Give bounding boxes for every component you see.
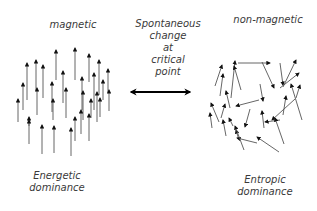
phase-transition-diagram: magnetic non-magnetic Spontaneous change… — [0, 0, 317, 211]
entropic-dominance-caption: Entropic dominance — [225, 174, 305, 198]
non-magnetic-label: non-magnetic — [228, 14, 308, 26]
magnetic-label: magnetic — [38, 19, 108, 31]
entropic-caption-line2: dominance — [225, 186, 305, 198]
transition-label-line5: point — [128, 66, 208, 78]
random-spin-arrows — [210, 60, 302, 152]
entropic-caption-line1: Entropic — [225, 174, 305, 186]
aligned-spin-arrows — [18, 48, 109, 156]
energetic-dominance-caption: Energetic dominance — [22, 170, 92, 194]
transition-label-line3: at — [128, 42, 208, 54]
transition-label-line4: critical — [128, 54, 208, 66]
energetic-caption-line1: Energetic — [22, 170, 92, 182]
transition-label-line1: Spontaneous — [128, 18, 208, 30]
energetic-caption-line2: dominance — [22, 182, 92, 194]
transition-label: Spontaneous change at critical point — [128, 18, 208, 78]
transition-label-line2: change — [128, 30, 208, 42]
